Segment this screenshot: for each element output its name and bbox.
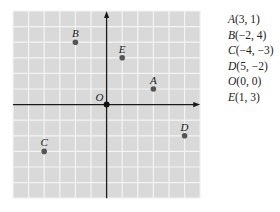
point-label-a: A	[149, 74, 157, 86]
point-o	[104, 102, 110, 108]
legend-item-e: E(1, 3)	[228, 90, 274, 106]
point-e	[119, 55, 125, 61]
legend-item-o: O(0, 0)	[228, 74, 274, 90]
point-c	[41, 149, 47, 155]
point-d	[182, 133, 188, 139]
point-a	[151, 86, 157, 92]
legend-item-b: B(−2, 4)	[228, 28, 274, 44]
coordinate-plane: ABCDOE	[0, 0, 220, 212]
point-label-c: C	[41, 136, 49, 148]
point-label-o: O	[96, 91, 104, 103]
point-b	[73, 39, 79, 45]
point-label-b: B	[72, 27, 79, 39]
point-coordinates-legend: A(3, 1) B(−2, 4) C(−4, −3) D(5, −2) O(0,…	[228, 12, 274, 106]
point-label-d: D	[180, 121, 189, 133]
legend-item-c: C(−4, −3)	[228, 43, 274, 59]
legend-item-d: D(5, −2)	[228, 59, 274, 75]
legend-item-a: A(3, 1)	[228, 12, 274, 28]
point-label-e: E	[118, 43, 126, 55]
